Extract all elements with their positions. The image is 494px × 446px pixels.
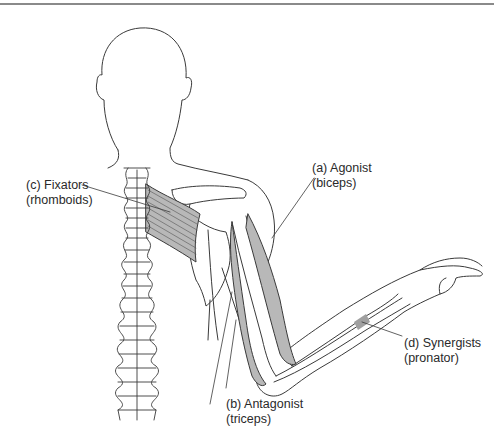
- label-synergists: (d) Synergists (pronator): [404, 336, 481, 366]
- label-agonist-muscle: (biceps): [312, 176, 372, 191]
- label-fixators-title: (c) Fixators: [26, 178, 93, 193]
- label-fixators-muscle: (rhomboids): [26, 193, 93, 208]
- label-synergists-title: (d) Synergists: [404, 336, 481, 351]
- label-antagonist-muscle: (triceps): [226, 412, 303, 427]
- label-agonist-title: (a) Agonist: [312, 161, 372, 176]
- head-outline: [96, 28, 248, 180]
- label-synergists-muscle: (pronator): [404, 351, 481, 366]
- neck-left: [108, 150, 119, 168]
- label-antagonist: (b) Antagonist (triceps): [226, 397, 303, 427]
- label-antagonist-title: (b) Antagonist: [226, 397, 303, 412]
- biceps-muscle: [246, 214, 296, 365]
- anatomy-illustration: [0, 0, 494, 446]
- leader-agonist: [272, 178, 314, 238]
- leader-antagonist-1: [210, 292, 232, 404]
- clavicle: [172, 186, 246, 205]
- label-fixators: (c) Fixators (rhomboids): [26, 178, 93, 208]
- leader-antagonist-2: [226, 320, 236, 388]
- ulna: [274, 304, 410, 382]
- torso-side: [208, 230, 218, 340]
- label-agonist: (a) Agonist (biceps): [312, 161, 372, 191]
